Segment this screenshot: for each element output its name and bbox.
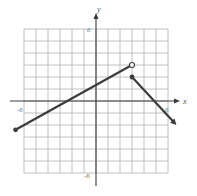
- y-max-tick-label: 6: [87, 26, 91, 34]
- axes: [10, 13, 180, 186]
- series-left-piece: [16, 66, 130, 130]
- coordinate-graph: x y -6 6 6 -6: [0, 0, 197, 196]
- y-min-tick-label: -6: [84, 172, 90, 180]
- closed-dot-icon: [130, 75, 135, 80]
- x-min-tick-label: -6: [17, 106, 23, 114]
- closed-dot-icon: [13, 127, 18, 132]
- series-right-piece: [132, 77, 174, 122]
- x-axis-label: x: [182, 97, 187, 106]
- x-axis-arrow-icon: [174, 99, 180, 104]
- series-group: [13, 63, 176, 133]
- open-circle-icon: [130, 63, 135, 68]
- y-axis-label: y: [96, 5, 101, 14]
